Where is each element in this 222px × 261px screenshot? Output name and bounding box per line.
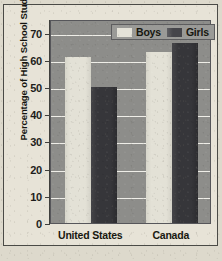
y-tick-0	[45, 224, 49, 225]
x-axis-label-canada: Canada	[121, 229, 221, 241]
y-tick-60	[45, 61, 49, 62]
bar-boys-canada	[146, 52, 172, 223]
y-axis-title: Percentage of High School Students	[18, 0, 29, 141]
y-tick-label-0: 0	[14, 219, 42, 230]
chart-legend: Boys Girls	[111, 24, 215, 40]
y-tick-label-20: 20	[14, 165, 42, 176]
legend-entry-girls: Girls	[167, 27, 209, 38]
plot-area	[50, 20, 211, 224]
legend-entry-boys: Boys	[117, 27, 161, 38]
y-tick-50	[45, 88, 49, 89]
y-axis-line	[49, 20, 50, 225]
legend-swatch-girls-icon	[167, 28, 182, 37]
y-tick-40	[45, 115, 49, 116]
legend-label-girls: Girls	[186, 27, 209, 38]
legend-label-boys: Boys	[136, 27, 161, 38]
bar-boys-united-states	[65, 57, 91, 223]
y-tick-30	[45, 142, 49, 143]
bar-girls-united-states	[91, 87, 117, 223]
legend-swatch-boys-icon	[117, 28, 132, 37]
y-tick-10	[45, 197, 49, 198]
y-tick-label-10: 10	[14, 192, 42, 203]
y-tick-70	[45, 34, 49, 35]
bar-girls-canada	[172, 43, 198, 223]
y-tick-20	[45, 170, 49, 171]
bar-chart-figure: Percentage of High School Students 01020…	[0, 0, 222, 261]
